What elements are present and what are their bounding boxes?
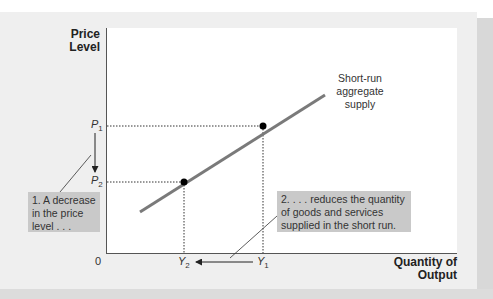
sras-label-line1: Short-run bbox=[328, 72, 392, 85]
sras-label-line2: aggregate bbox=[328, 85, 392, 98]
note1-line3: level . . . bbox=[32, 220, 96, 233]
note1-leader bbox=[60, 155, 91, 192]
tick-p1: P1 bbox=[91, 118, 103, 133]
note-price-decrease: 1. A decrease in the price level . . . bbox=[28, 192, 100, 232]
sras-label: Short-run aggregate supply bbox=[328, 72, 392, 111]
origin-label: 0 bbox=[95, 255, 101, 267]
x-axis-title: Quantity of Output bbox=[380, 256, 457, 282]
point-p2-y2 bbox=[181, 179, 188, 186]
tick-p2: P2 bbox=[91, 174, 103, 189]
note2-line1: 2. . . . reduces the quantity bbox=[281, 193, 407, 206]
note2-leader bbox=[230, 216, 277, 258]
tick-p2-sub: 2 bbox=[98, 180, 102, 189]
x-axis-title-line2: Output bbox=[380, 269, 457, 282]
note1-line2: in the price bbox=[32, 207, 96, 220]
tick-y2-sub: 2 bbox=[185, 261, 189, 270]
note1-line1: 1. A decrease bbox=[32, 194, 96, 207]
tick-p1-sub: 1 bbox=[98, 124, 102, 133]
note-quantity-decrease: 2. . . . reduces the quantity of goods a… bbox=[277, 191, 411, 232]
y-axis-title: Price Level bbox=[66, 28, 100, 54]
note2-line3: supplied in the short run. bbox=[281, 219, 407, 232]
note2-line2: of goods and services bbox=[281, 206, 407, 219]
tick-y1-sub: 1 bbox=[264, 261, 268, 270]
tick-y1: Y1 bbox=[257, 255, 269, 270]
sras-label-line3: supply bbox=[328, 98, 392, 111]
tick-y2: Y2 bbox=[178, 255, 190, 270]
y-axis-title-line2: Level bbox=[66, 41, 100, 54]
point-p1-y1 bbox=[260, 123, 267, 130]
